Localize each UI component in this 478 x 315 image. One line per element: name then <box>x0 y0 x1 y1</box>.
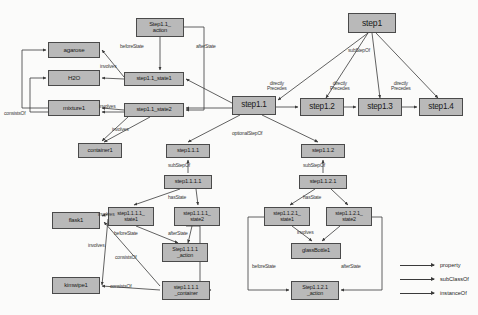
node-label: step1.1.1 <box>167 148 209 154</box>
el-optionalstepof: optionalStepOf <box>232 131 262 136</box>
el-involves-kim: involves <box>88 243 104 248</box>
el-dp-1: directly Precedes <box>267 81 287 92</box>
node-s1121_action[interactable]: Step1.1.2.1 _action <box>291 281 339 300</box>
node-s1111_state1[interactable]: step1.1.1.1_ state1 <box>108 207 154 226</box>
node-step1_1_1[interactable]: step1.1.1 <box>166 144 210 158</box>
node-label: step1.1.2.1 <box>300 179 346 185</box>
legend-arrow-icon <box>400 265 434 266</box>
el-involves-glass: involves <box>297 230 313 235</box>
el-involves-h2o: involves <box>100 64 116 69</box>
el-substepof-111: subStepOf <box>168 163 190 168</box>
node-label: Step1.1_ action <box>137 22 183 34</box>
node-step1_1_2_1[interactable]: step1.1.2.1 <box>299 175 347 189</box>
node-s1121_state1[interactable]: step1.1.2.1_ state1 <box>264 207 310 226</box>
legend-arrow-icon <box>400 279 434 280</box>
node-kimwipe1[interactable]: kimwipe1 <box>52 277 100 294</box>
node-label: agarose <box>49 47 99 53</box>
legend-arrow-icon <box>400 293 434 294</box>
el-dp-3: directly Precedes <box>391 81 411 92</box>
legend-label: property <box>440 262 461 268</box>
node-step1_2[interactable]: step1.2 <box>300 98 344 116</box>
node-h2o[interactable]: H2O <box>48 70 100 86</box>
ontology-diagram-canvas: agaroseH2Omixture1container1Step1.1_ act… <box>0 0 478 315</box>
node-s1111_action[interactable]: Step1.1.1.1 _action <box>162 243 208 262</box>
node-s1111_state2[interactable]: step1.1.1.1_ state2 <box>174 207 220 226</box>
node-label: step1.1.2 <box>302 148 344 154</box>
node-s1121_state2[interactable]: step1.1.2.1_ state2 <box>326 207 372 226</box>
el-consistsof-left: consistsOf <box>4 111 25 116</box>
el-afterstate-2: afterState <box>168 231 188 236</box>
node-label: step1.1_state2 <box>125 107 183 113</box>
node-label: container1 <box>79 148 121 154</box>
el-hasstate-2: hasState <box>303 195 321 200</box>
node-step1_4[interactable]: step1.4 <box>419 98 463 116</box>
node-step1_1_2[interactable]: step1.1.2 <box>301 144 345 158</box>
el-beforestate-3: beforeState <box>252 264 276 269</box>
node-label: step1.1 <box>233 101 275 109</box>
el-involves-flask: involves <box>98 212 114 217</box>
el-consistsof-2: consistsOf <box>110 284 131 289</box>
el-dp-2: directly Precedes <box>330 81 350 92</box>
legend-instanceof: instanceOf <box>400 290 467 296</box>
node-label: step1 <box>349 19 395 28</box>
node-step1_1_state2[interactable]: step1.1_state2 <box>124 103 184 117</box>
el-substepof-112: subStepOf <box>303 163 325 168</box>
node-step1[interactable]: step1 <box>348 13 396 33</box>
node-label: glassBottle1 <box>292 248 340 254</box>
el-involves-cont: involves <box>112 127 128 132</box>
node-glassbottle1[interactable]: glassBottle1 <box>291 243 341 259</box>
node-label: step1.2 <box>301 103 343 111</box>
el-consistsof-1: consistsOf <box>115 255 136 260</box>
legend-label: subClassOf <box>440 276 469 282</box>
el-beforestate-2: beforeState <box>114 231 138 236</box>
el-substepof-top: subStepOf <box>348 48 370 53</box>
node-s1111_container[interactable]: step1.1.1.1 _container <box>162 281 210 300</box>
el-beforestate-1: beforeState <box>120 44 144 49</box>
el-involves-mix: involves <box>99 104 115 109</box>
node-label: step1.1.2.1_ state2 <box>327 211 371 222</box>
node-label: step1.1.2.1_ state1 <box>265 211 309 222</box>
node-label: Step1.1.2.1 _action <box>292 285 338 296</box>
node-label: kimwipe1 <box>53 282 99 288</box>
node-label: step1.1.1.1 <box>165 179 211 185</box>
node-step1_1_1_1[interactable]: step1.1.1.1 <box>164 175 212 189</box>
node-label: step1.1.1.1_ state2 <box>175 211 219 222</box>
node-label: step1.1_state1 <box>125 76 183 82</box>
node-label: step1.1.1.1_ state1 <box>109 211 153 222</box>
node-step1_1_state1[interactable]: step1.1_state1 <box>124 72 184 86</box>
node-step1_1_action[interactable]: Step1.1_ action <box>136 18 184 37</box>
node-label: step1.3 <box>359 103 401 111</box>
node-container1[interactable]: container1 <box>78 143 122 158</box>
node-label: flask1 <box>53 217 99 223</box>
node-step1_1[interactable]: step1.1 <box>232 96 276 115</box>
legend-subclassof: subClassOf <box>400 276 469 282</box>
legend-label: instanceOf <box>440 290 467 296</box>
el-hasstate-1: hasState <box>168 195 186 200</box>
node-label: H2O <box>49 75 99 81</box>
node-label: Step1.1.1.1 _action <box>163 247 207 258</box>
node-mixture1[interactable]: mixture1 <box>48 100 100 116</box>
node-label: step1.4 <box>420 103 462 111</box>
node-step1_3[interactable]: step1.3 <box>358 98 402 116</box>
node-agarose[interactable]: agarose <box>48 42 100 58</box>
node-label: step1.1.1.1 _container <box>163 285 209 296</box>
node-label: mixture1 <box>49 105 99 111</box>
el-afterstate-3: afterState <box>341 264 361 269</box>
node-flask1[interactable]: flask1 <box>52 212 100 229</box>
el-afterstate-1: afterState <box>196 44 216 49</box>
legend-property: property <box>400 262 461 268</box>
